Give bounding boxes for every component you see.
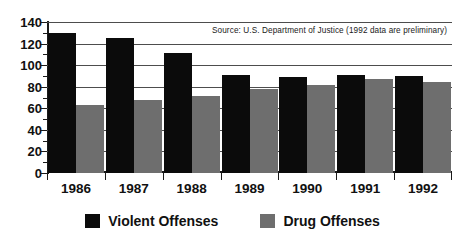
legend-swatch-icon xyxy=(260,214,275,228)
plot-area xyxy=(47,22,452,173)
bar-group-1991 xyxy=(337,22,393,173)
bar-1990-drug[interactable] xyxy=(307,85,335,173)
bar-group-1987 xyxy=(106,22,162,173)
y-tick-label-60: 60 xyxy=(2,102,42,115)
x-axis-ticks xyxy=(47,173,452,180)
x-tick-label-1989: 1989 xyxy=(222,181,278,197)
x-tick-label-1987: 1987 xyxy=(106,181,162,197)
bar-group-1990 xyxy=(279,22,335,173)
y-tick-label-0: 0 xyxy=(2,167,42,180)
y-tick-label-140: 140 xyxy=(2,16,42,29)
bar-1991-drug[interactable] xyxy=(365,79,393,173)
x-tick-label-1988: 1988 xyxy=(164,181,220,197)
bar-1992-violent[interactable] xyxy=(395,76,423,173)
bar-1990-violent[interactable] xyxy=(279,77,307,173)
x-tick-5 xyxy=(336,173,337,180)
bar-1989-violent[interactable] xyxy=(222,75,250,173)
x-tick-2 xyxy=(163,173,164,180)
y-tick-label-100: 100 xyxy=(2,59,42,72)
x-tick-1 xyxy=(105,173,106,180)
bar-1992-drug[interactable] xyxy=(423,82,451,173)
legend-swatch-icon xyxy=(85,214,100,228)
bar-1991-violent[interactable] xyxy=(337,75,365,173)
legend-item-violent-offenses[interactable]: Violent Offenses xyxy=(85,214,218,228)
x-tick-3 xyxy=(221,173,222,180)
bar-group-1992 xyxy=(395,22,451,173)
bar-1989-drug[interactable] xyxy=(250,89,278,173)
legend-label: Drug Offenses xyxy=(283,214,379,228)
x-tick-label-1991: 1991 xyxy=(337,181,393,197)
y-tick-label-40: 40 xyxy=(2,123,42,136)
y-axis-tick-labels: 020406080100120140 xyxy=(0,22,42,173)
source-note: Source: U.S. Department of Justice (1992… xyxy=(212,26,447,35)
x-tick-7 xyxy=(451,173,452,180)
x-tick-4 xyxy=(278,173,279,180)
bar-group-1988 xyxy=(164,22,220,173)
bar-group-1986 xyxy=(48,22,104,173)
bar-1986-violent[interactable] xyxy=(48,33,76,173)
x-tick-label-1990: 1990 xyxy=(279,181,335,197)
bar-1988-drug[interactable] xyxy=(192,96,220,173)
x-tick-label-1992: 1992 xyxy=(395,181,451,197)
chart-legend: Violent OffensesDrug Offenses xyxy=(0,208,465,234)
bar-1988-violent[interactable] xyxy=(164,53,192,173)
bar-group-1989 xyxy=(222,22,278,173)
x-axis-tick-labels: 1986198719881989199019911992 xyxy=(47,181,452,201)
y-tick-label-80: 80 xyxy=(2,80,42,93)
x-tick-label-1986: 1986 xyxy=(48,181,104,197)
bar-chart-figure: 020406080100120140 198619871988198919901… xyxy=(0,0,465,244)
bar-1987-drug[interactable] xyxy=(134,100,162,173)
legend-item-drug-offenses[interactable]: Drug Offenses xyxy=(260,214,379,228)
bar-1986-drug[interactable] xyxy=(76,105,104,173)
legend-label: Violent Offenses xyxy=(108,214,218,228)
y-tick-label-120: 120 xyxy=(2,37,42,50)
x-tick-0 xyxy=(47,173,48,180)
x-tick-6 xyxy=(394,173,395,180)
bar-1987-violent[interactable] xyxy=(106,38,134,173)
y-tick-label-20: 20 xyxy=(2,145,42,158)
